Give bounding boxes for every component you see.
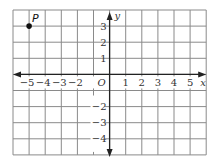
y-tick-label: 1 xyxy=(100,53,106,64)
x-tick-label: 5 xyxy=(187,77,193,88)
y-axis-label: y xyxy=(114,10,121,21)
x-tick-label: −2 xyxy=(68,77,83,88)
x-tick-label: 4 xyxy=(171,77,177,88)
point-marker xyxy=(26,23,32,29)
point-label: P xyxy=(32,12,39,25)
y-tick-label: −4 xyxy=(92,133,107,144)
x-tick-label: −4 xyxy=(36,77,51,88)
y-tick-label: 3 xyxy=(100,21,106,32)
x-tick-label: −5 xyxy=(20,77,35,88)
x-tick-label: 3 xyxy=(155,77,161,88)
y-axis-arrow-up-icon xyxy=(107,12,113,20)
y-tick-label: −3 xyxy=(92,117,107,128)
x-tick-label: 1 xyxy=(123,77,129,88)
x-tick-label: 2 xyxy=(139,77,145,88)
x-tick-label: −3 xyxy=(52,77,67,88)
x-axis-label: x xyxy=(200,77,206,88)
y-tick-label: −2 xyxy=(92,101,107,112)
coordinate-plane: −5−4−3−212345321−2−3−4 P x y O xyxy=(0,0,218,163)
y-tick-label: 2 xyxy=(100,37,106,48)
origin-label: O xyxy=(98,77,106,88)
y-axis-arrow-down-icon xyxy=(107,149,113,157)
